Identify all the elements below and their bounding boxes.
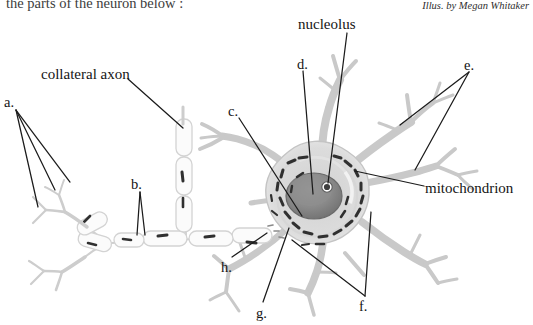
label-f: f. xyxy=(359,299,367,314)
leader-b xyxy=(137,192,145,235)
leader-collateral-axon xyxy=(128,79,183,128)
label-b: b. xyxy=(131,177,142,192)
prompt-text: the parts of the neuron below : xyxy=(6,0,183,11)
illustration-credit: Illus. by Megan Whitaker xyxy=(422,1,529,12)
label-c: c. xyxy=(228,104,238,119)
leader-a xyxy=(16,110,70,207)
label-d: d. xyxy=(297,57,308,72)
neuron-artwork xyxy=(29,56,477,315)
figure-page: the parts of the neuron below : Illus. b… xyxy=(0,0,533,325)
label-mitochondrion: mitochondrion xyxy=(425,181,513,196)
label-collateral-axon: collateral axon xyxy=(41,67,130,82)
label-h: h. xyxy=(221,260,232,275)
label-nucleolus: nucleolus xyxy=(298,17,356,32)
label-a: a. xyxy=(4,95,14,110)
neuron-illustration xyxy=(0,0,533,325)
label-e: e. xyxy=(464,58,474,73)
label-g: g. xyxy=(256,306,267,321)
axon-terminals xyxy=(29,180,87,290)
